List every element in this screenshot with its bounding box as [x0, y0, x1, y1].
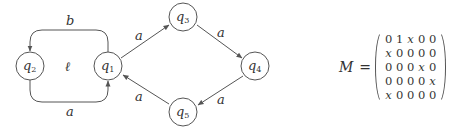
matrix-cell: 0 [418, 74, 425, 88]
matrix-cell: 0 [429, 32, 436, 46]
matrix-cell: 0 [396, 74, 403, 88]
matrix-cell: 1 [396, 32, 403, 46]
matrix-cell: x [429, 74, 436, 88]
matrix-cell: x [407, 32, 414, 46]
node-q5: q5 [169, 98, 197, 126]
matrix-cell: 0 [407, 88, 414, 102]
edge-q1-q2 [30, 30, 108, 52]
matrix-cell: 0 [396, 60, 403, 74]
matrix-cell: 0 [407, 60, 414, 74]
matrix-cell: 0 [407, 46, 414, 60]
matrix-cell: 0 [385, 32, 392, 46]
matrix-rows: 0 1 x 0 0 x 0 0 0 0 0 0 0 x 0 0 0 0 0 x [383, 32, 438, 102]
matrix-cell: x [385, 88, 392, 102]
node-q3: q3 [169, 3, 197, 31]
matrix-cell: x [418, 60, 425, 74]
matrix-cell: 0 [385, 74, 392, 88]
equals-sign: = [359, 59, 371, 75]
matrix-cell: 0 [418, 32, 425, 46]
matrix-cell: x [385, 46, 392, 60]
edge-q2-q1 [30, 80, 108, 102]
edge-label-a-q1q3: a [135, 28, 143, 43]
matrix-cell: 0 [396, 46, 403, 60]
matrix-cell: 0 [429, 88, 436, 102]
matrix-row: 0 0 0 0 x [385, 74, 436, 88]
matrix-row: 0 0 0 x 0 [385, 60, 436, 74]
edge-q5-q1 [123, 75, 169, 104]
adjacency-matrix: M = 0 1 x 0 0 x 0 0 0 0 0 0 0 x 0 0 0 0 … [339, 30, 446, 104]
matrix-cell: 0 [429, 46, 436, 60]
left-paren [375, 30, 383, 104]
edge-label-a-q3q4: a [217, 25, 225, 40]
matrix-name: M [339, 59, 353, 75]
edge-label-b: b [66, 13, 74, 28]
matrix-cell: 0 [385, 60, 392, 74]
matrix-cell: 0 [418, 88, 425, 102]
edge-label-a-q4q5: a [217, 92, 225, 107]
matrix-cell: 0 [418, 46, 425, 60]
node-q4: q4 [241, 52, 269, 80]
node-q1: q1 [94, 52, 122, 80]
loop-label: ℓ [65, 59, 71, 74]
matrix-row: x 0 0 0 0 [385, 88, 436, 102]
matrix-cell: 0 [396, 88, 403, 102]
matrix-row: x 0 0 0 0 [385, 46, 436, 60]
node-q2: q2 [16, 52, 44, 80]
matrix-cell: 0 [429, 60, 436, 74]
matrix-cell: 0 [407, 74, 414, 88]
edge-label-a-q5q1: a [135, 89, 143, 104]
edge-q1-q3 [121, 25, 169, 58]
edge-label-a-bottom: a [66, 104, 74, 119]
right-paren [438, 30, 446, 104]
matrix-row: 0 1 x 0 0 [385, 32, 436, 46]
